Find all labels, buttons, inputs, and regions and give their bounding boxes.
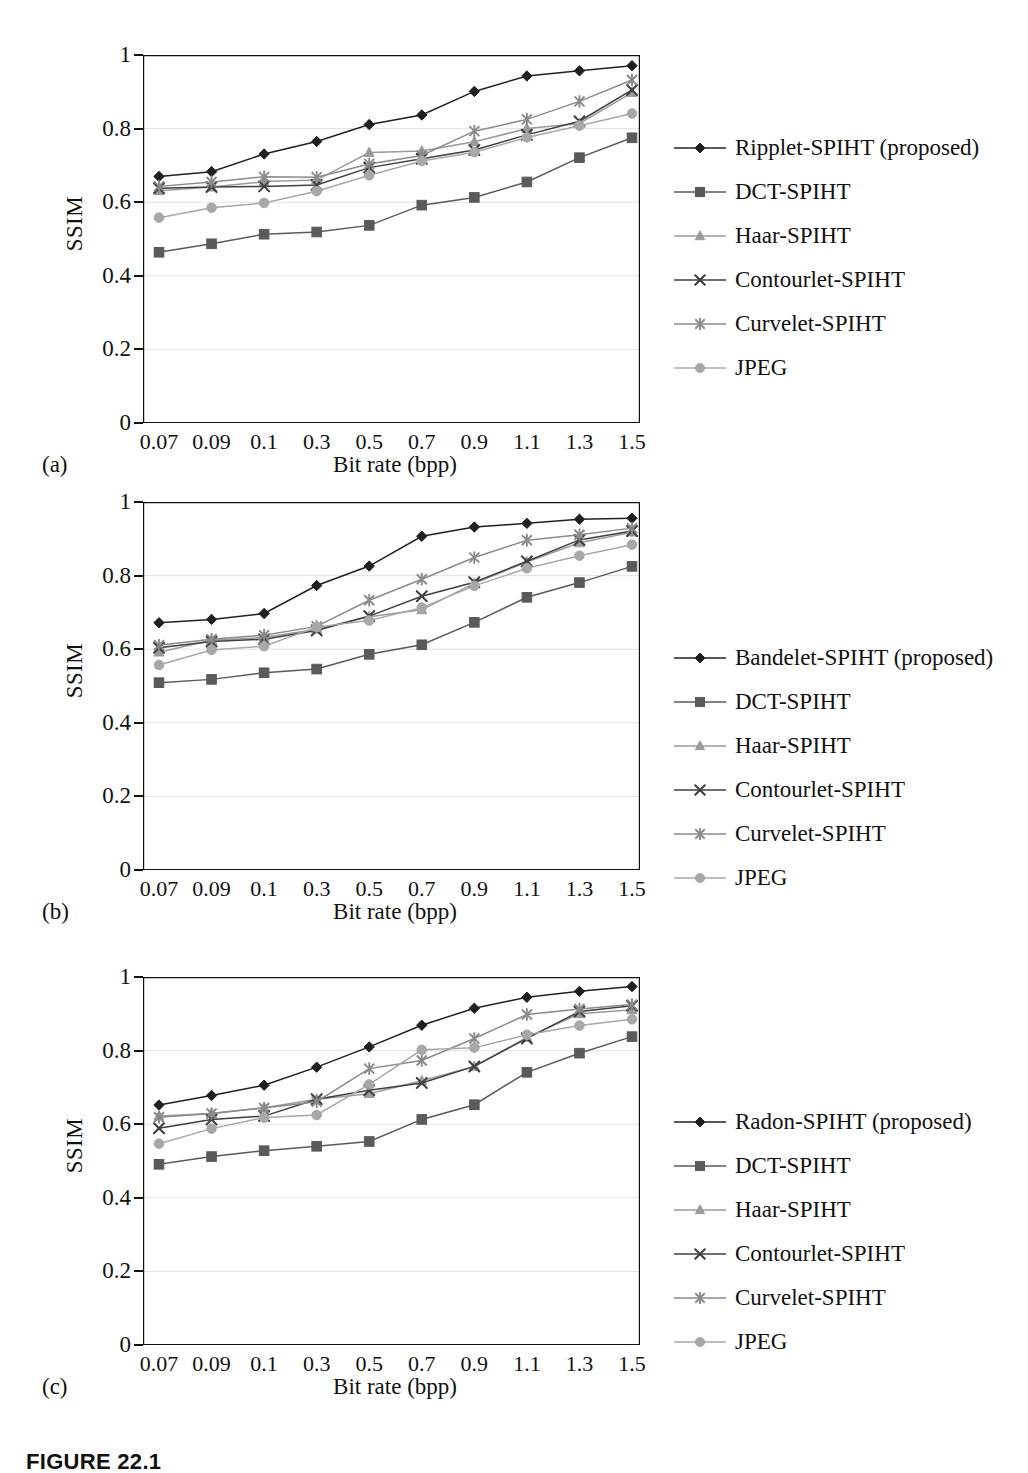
y-tick-label: 0.8	[85, 116, 131, 142]
marker-diamond	[154, 1100, 164, 1110]
marker-square	[695, 1161, 704, 1170]
x-tick-label: 1.5	[618, 876, 646, 902]
chart-b-canvas	[143, 502, 640, 870]
x-tick-label: 0.07	[140, 1351, 179, 1377]
marker-diamond	[417, 110, 427, 120]
series-star	[154, 998, 637, 1123]
y-tick-mark	[134, 795, 143, 797]
legend-item[interactable]: JPEG	[672, 346, 979, 390]
marker-circle	[522, 133, 532, 143]
marker-square	[364, 650, 374, 660]
legend-label: DCT-SPIHT	[735, 689, 850, 715]
chart-a-ylabel: SSIM	[62, 196, 88, 251]
marker-square	[312, 1141, 322, 1151]
legend-item[interactable]: JPEG	[672, 856, 993, 900]
legend-item[interactable]: Curvelet-SPIHT	[672, 1276, 972, 1320]
chart-a-legend: Ripplet-SPIHT (proposed)DCT-SPIHTHaar-SP…	[672, 126, 979, 390]
legend-item[interactable]: Contourlet-SPIHT	[672, 768, 993, 812]
x-tick-label: 1.5	[618, 1351, 646, 1377]
legend-item[interactable]: Contourlet-SPIHT	[672, 1232, 972, 1276]
marker-circle	[695, 1337, 704, 1346]
marker-x	[417, 591, 427, 601]
legend-item[interactable]: Curvelet-SPIHT	[672, 812, 993, 856]
marker-square	[627, 133, 637, 143]
legend-label: Curvelet-SPIHT	[735, 311, 886, 337]
legend-marker-star-icon	[672, 824, 728, 844]
marker-circle	[207, 203, 217, 213]
legend-item[interactable]: Curvelet-SPIHT	[672, 302, 979, 346]
marker-diamond	[574, 986, 584, 996]
y-tick-label: 0.4	[85, 710, 131, 736]
marker-star	[469, 125, 479, 137]
legend-item[interactable]: Haar-SPIHT	[672, 1188, 972, 1232]
y-tick-label: 0	[85, 857, 131, 883]
legend-item[interactable]: Ripplet-SPIHT (proposed)	[672, 126, 979, 170]
legend-item[interactable]: Haar-SPIHT	[672, 724, 993, 768]
marker-diamond	[469, 86, 479, 96]
subfigure-label-b: (b)	[42, 899, 69, 925]
y-tick-label: 0.2	[85, 336, 131, 362]
x-tick-label: 0.09	[192, 876, 231, 902]
legend-label: Contourlet-SPIHT	[735, 777, 905, 803]
marker-diamond	[574, 66, 584, 76]
marker-square	[259, 229, 269, 239]
marker-diamond	[417, 531, 427, 541]
legend-item[interactable]: JPEG	[672, 1320, 972, 1364]
legend-item[interactable]: DCT-SPIHT	[672, 1144, 972, 1188]
legend-label: Haar-SPIHT	[735, 1197, 851, 1223]
y-tick-mark	[134, 869, 143, 871]
marker-star	[522, 113, 532, 126]
marker-square	[207, 239, 217, 249]
legend-label: JPEG	[735, 865, 787, 891]
marker-square	[417, 640, 427, 650]
subfigure-label-c: (c)	[42, 1374, 68, 1400]
marker-circle	[627, 1015, 637, 1025]
y-tick-label: 0.2	[85, 1258, 131, 1284]
y-tick-mark	[134, 648, 143, 650]
marker-diamond	[469, 1003, 479, 1013]
legend-marker-triangle-icon	[672, 1200, 728, 1220]
series-star	[154, 74, 637, 193]
marker-square	[207, 675, 217, 685]
legend-item[interactable]: Haar-SPIHT	[672, 214, 979, 258]
marker-square	[695, 697, 704, 706]
marker-circle	[522, 1030, 532, 1040]
legend-item[interactable]: Contourlet-SPIHT	[672, 258, 979, 302]
legend-marker-diamond-icon	[672, 1112, 728, 1132]
figure-panel-a: 00.20.40.60.81 0.070.090.10.30.50.70.91.…	[0, 0, 1028, 490]
y-tick-label: 0.4	[85, 1185, 131, 1211]
marker-square	[312, 227, 322, 237]
marker-star	[627, 74, 637, 87]
marker-diamond	[259, 149, 269, 159]
y-tick-label: 0.8	[85, 1038, 131, 1064]
legend-item[interactable]: Radon-SPIHT (proposed)	[672, 1100, 972, 1144]
marker-diamond	[206, 1090, 216, 1100]
marker-square	[575, 153, 585, 163]
marker-circle	[575, 551, 585, 561]
legend-item[interactable]: Bandelet-SPIHT (proposed)	[672, 636, 993, 680]
y-tick-mark	[134, 1197, 143, 1199]
chart-b-xlabel: Bit rate (bpp)	[250, 899, 540, 925]
x-tick-label: 0.07	[140, 429, 179, 455]
chart-b-legend: Bandelet-SPIHT (proposed)DCT-SPIHTHaar-S…	[672, 636, 993, 900]
y-tick-label: 1	[85, 489, 131, 515]
y-tick-mark	[134, 201, 143, 203]
chart-b-ylabel: SSIM	[62, 643, 88, 698]
y-tick-label: 0.8	[85, 563, 131, 589]
legend-item[interactable]: DCT-SPIHT	[672, 680, 993, 724]
series-triangle	[154, 1004, 637, 1120]
chart-c-canvas	[143, 977, 640, 1345]
legend-marker-square-icon	[672, 182, 728, 202]
y-tick-mark	[134, 422, 143, 424]
series-diamond	[154, 981, 637, 1110]
x-tick-label: 0.07	[140, 876, 179, 902]
marker-diamond	[364, 561, 374, 571]
marker-diamond	[311, 136, 321, 146]
marker-circle	[364, 171, 374, 181]
y-tick-label: 0.4	[85, 263, 131, 289]
series-triangle	[154, 87, 637, 195]
legend-item[interactable]: DCT-SPIHT	[672, 170, 979, 214]
marker-circle	[470, 581, 480, 591]
marker-square	[364, 221, 374, 231]
marker-square	[259, 1146, 269, 1156]
